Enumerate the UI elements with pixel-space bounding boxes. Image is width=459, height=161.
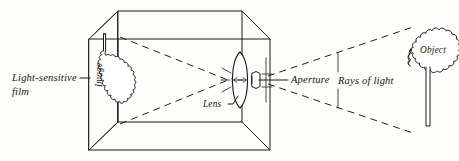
lens-ray-tick-1 bbox=[222, 68, 231, 73]
rays-of-light-group: Rays of light bbox=[337, 53, 395, 108]
tree-trunk bbox=[426, 67, 430, 126]
box-rear-face bbox=[118, 11, 242, 122]
lens-group: Lens bbox=[202, 52, 248, 109]
figure-canvas: Image Lens bbox=[0, 0, 459, 161]
film-label-group: Light-sensitive film bbox=[11, 72, 90, 97]
ray-inside-upper bbox=[120, 37, 238, 84]
lens-label: Lens bbox=[202, 99, 222, 109]
object-shape-group: Object bbox=[408, 28, 459, 126]
ray-outside-lower bbox=[268, 84, 413, 133]
image-shape-group: Image bbox=[94, 34, 136, 103]
film-label-line-2: film bbox=[12, 86, 29, 97]
rays-of-light-label: Rays of light bbox=[337, 75, 395, 86]
ray-outside-upper bbox=[268, 27, 413, 76]
camera-optics-diagram: Image Lens bbox=[0, 0, 459, 161]
lens-ray-tick-3 bbox=[222, 87, 231, 92]
box-edge-top-right bbox=[242, 11, 270, 39]
aperture-label: Aperture bbox=[290, 74, 330, 85]
aperture-group: Aperture bbox=[252, 58, 330, 102]
box-edge-bottom-right bbox=[242, 122, 270, 150]
object-label: Object bbox=[420, 45, 446, 55]
film-label-line-1: Light-sensitive bbox=[11, 72, 77, 83]
image-label: Image bbox=[94, 63, 104, 88]
